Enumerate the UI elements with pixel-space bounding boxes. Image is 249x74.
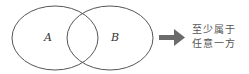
set-b-label: B <box>111 31 119 44</box>
set-b-ellipse <box>67 6 153 70</box>
result-line-1: 至少属于 <box>192 23 236 36</box>
arrow-icon <box>159 29 185 46</box>
set-a-label: A <box>44 31 52 44</box>
result-line-2: 任意一方 <box>192 37 236 50</box>
set-a-ellipse <box>12 6 98 70</box>
